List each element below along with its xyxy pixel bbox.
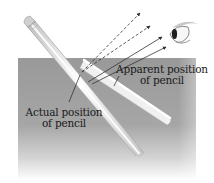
apparent-position-label: Apparent position of pencil xyxy=(112,64,212,86)
actual-label-line2: of pencil xyxy=(22,118,106,129)
eye-icon xyxy=(170,22,198,43)
refraction-diagram xyxy=(0,0,214,183)
apparent-label-line2: of pencil xyxy=(112,75,212,86)
actual-position-label: Actual position of pencil xyxy=(22,107,106,129)
